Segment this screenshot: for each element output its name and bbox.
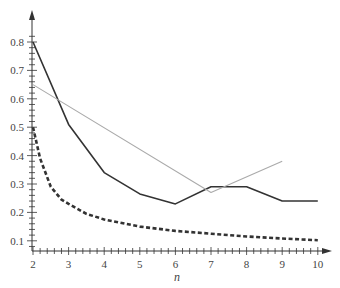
x-ticks: 2345678910 — [30, 247, 324, 270]
y-tick-label: 0.1 — [10, 235, 24, 247]
x-tick-label: 5 — [137, 258, 143, 270]
x-axis-arrow-icon — [322, 248, 332, 254]
x-tick-label: 7 — [208, 258, 214, 270]
x-tick-label: 2 — [30, 258, 36, 270]
x-tick-label: 9 — [279, 258, 285, 270]
line-chart: 2345678910 0.10.20.30.40.50.60.70.8 n — [0, 0, 340, 288]
x-tick-label: 8 — [244, 258, 250, 270]
chart-canvas: 2345678910 0.10.20.30.40.50.60.70.8 n — [0, 0, 340, 288]
y-ticks: 0.10.20.30.40.50.60.70.8 — [10, 36, 37, 247]
y-tick-label: 0.6 — [10, 93, 24, 105]
x-axis-label: n — [174, 270, 180, 284]
x-tick-label: 6 — [173, 258, 179, 270]
x-tick-label: 3 — [66, 258, 72, 270]
series-line-dashed-dark — [33, 127, 318, 240]
y-axis-arrow-icon — [29, 10, 35, 20]
y-tick-label: 0.3 — [10, 178, 24, 190]
y-tick-label: 0.8 — [10, 36, 24, 48]
y-tick-label: 0.4 — [10, 150, 24, 162]
x-tick-label: 10 — [312, 258, 324, 270]
x-tick-label: 4 — [101, 258, 107, 270]
y-tick-label: 0.2 — [10, 206, 24, 218]
y-tick-label: 0.5 — [10, 121, 24, 133]
axes-layer: 2345678910 0.10.20.30.40.50.60.70.8 — [10, 10, 332, 270]
series-line-solid-dark — [33, 42, 318, 204]
series-line-solid-gray — [33, 85, 282, 193]
y-tick-label: 0.7 — [10, 64, 24, 76]
series-layer — [33, 42, 318, 240]
